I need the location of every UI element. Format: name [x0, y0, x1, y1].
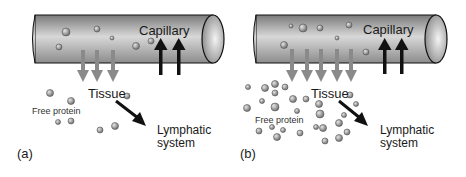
outflow-arrows-a — [77, 50, 119, 82]
lymph-arrow-a — [116, 101, 146, 126]
capillary-a — [33, 15, 225, 63]
lymphatic-label-a-line2: system — [157, 137, 195, 150]
tissue-label-b: Tissue — [311, 87, 349, 100]
capillary-label-b: Capillary — [363, 23, 414, 36]
free-protein-label-a: Free protein — [32, 107, 81, 116]
panel-label-b: (b) — [240, 147, 256, 160]
tissue-label-a: Tissue — [88, 87, 126, 100]
lymphatic-label-b-line2: system — [380, 137, 418, 150]
free-protein-label-b: Free protein — [255, 116, 304, 125]
panel-label-a: (a) — [17, 147, 33, 160]
capillary-label-a: Capillary — [139, 24, 190, 37]
